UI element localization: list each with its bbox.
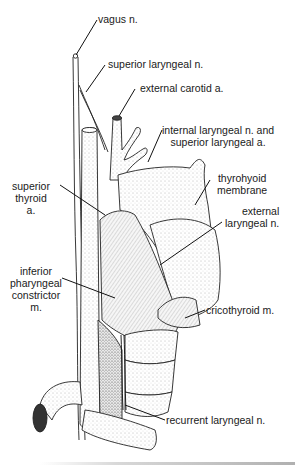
label-external-laryngeal-nerve: external laryngeal n. (225, 205, 279, 229)
label-line: internal laryngeal n. and (162, 124, 274, 136)
label-inferior-pharyngeal-constrictor: inferior pharyngeal constrictor m. (10, 265, 62, 313)
label-line: superior laryngeal a. (162, 136, 274, 148)
label-external-carotid-artery: external carotid a. (140, 82, 223, 94)
label-line: m. (10, 301, 62, 313)
label-line: membrane (217, 184, 267, 196)
label-cricothyroid-muscle: cricothyroid m. (206, 304, 274, 316)
pharynx-wall (98, 320, 122, 424)
label-line: superior (12, 180, 50, 192)
label-line: external (225, 205, 279, 217)
label-line: inferior (10, 265, 62, 277)
label-recurrent-laryngeal-nerve: recurrent laryngeal n. (166, 414, 265, 426)
anatomical-figure: vagus n. superior laryngeal n. external … (0, 0, 295, 466)
trachea (125, 330, 178, 417)
label-internal-laryngeal-nerve: internal laryngeal n. and superior laryn… (162, 124, 274, 148)
label-line: thyroid (12, 192, 50, 204)
label-line: thyrohyoid (217, 172, 267, 184)
label-superior-laryngeal-nerve: superior laryngeal n. (108, 58, 203, 70)
vessel-column (80, 128, 100, 429)
label-line: laryngeal n. (225, 217, 279, 229)
label-thyrohyoid-membrane: thyrohyoid membrane (217, 172, 267, 196)
label-vagus-nerve: vagus n. (98, 13, 138, 25)
label-line: constrictor (10, 289, 62, 301)
label-line: pharyngeal (10, 277, 62, 289)
bottom-divider (40, 462, 295, 465)
label-superior-thyroid-artery: superior thyroid a. (12, 180, 50, 216)
label-line: a. (12, 204, 50, 216)
